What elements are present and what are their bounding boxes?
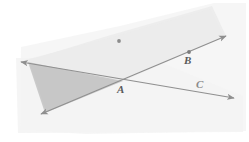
scan-grain-overlay <box>0 0 249 142</box>
point-label-b: B <box>184 55 191 66</box>
point-label-c: C <box>196 79 203 90</box>
point-label-a: A <box>117 84 124 95</box>
figure-canvas <box>0 0 249 142</box>
geometry-figure: A B C <box>0 0 249 142</box>
